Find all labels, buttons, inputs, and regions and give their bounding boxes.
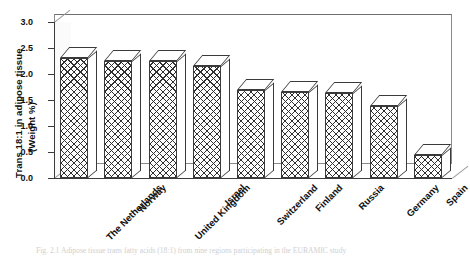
y-tick-label: 2.5 (20, 43, 33, 53)
bar-side-face (309, 85, 318, 178)
y-tick-label: 0.0 (20, 173, 33, 183)
bar-finland (281, 92, 309, 178)
x-label-germany: Germany (404, 182, 441, 219)
bar-israel (193, 66, 221, 178)
bar-front-face (414, 155, 442, 178)
bar-germany (370, 106, 398, 178)
bar-side-face (353, 86, 362, 178)
plot-area: 0.00.51.01.52.02.53.0 (36, 14, 460, 182)
bar-front-face (104, 61, 132, 178)
depth-edge-bottom-right (452, 166, 468, 179)
bar-side-face (132, 53, 141, 178)
bar-side-face (88, 50, 97, 178)
bar-front-face (325, 93, 353, 178)
y-tick-label: 0.5 (20, 147, 33, 157)
bar-series (54, 14, 452, 178)
bar-front-face (281, 92, 309, 178)
bar-front-face (60, 58, 88, 178)
bar-norway (104, 61, 132, 178)
bar-spain (414, 155, 442, 178)
x-label-russia: Russia (357, 182, 387, 212)
bar-side-face (398, 99, 407, 178)
bar-side-face (221, 59, 230, 178)
bar-front-face (149, 61, 177, 178)
bar-front-face (193, 66, 221, 178)
bar-united-kingdom (149, 61, 177, 178)
x-axis-labels: The NetherlandsNorwayUnited KingdomIsrae… (36, 182, 460, 240)
figure-caption: Fig. 2.1 Adipose tissue trans fatty acid… (36, 246, 456, 255)
y-axis-title-line1: Trans 18:1 in adipose tissue (13, 48, 24, 178)
y-tick-label: 3.0 (20, 17, 33, 27)
bar-switzerland (237, 90, 265, 178)
y-tick-label: 1.5 (20, 95, 33, 105)
bar-side-face (177, 53, 186, 178)
y-tick-mark (48, 178, 54, 179)
bar-russia (325, 93, 353, 178)
y-tick-label: 1.0 (20, 121, 33, 131)
bar-front-face (370, 106, 398, 178)
y-tick-label: 2.0 (20, 69, 33, 79)
x-label-spain: Spain (443, 182, 469, 208)
bar-the-netherlands (60, 58, 88, 178)
bar-front-face (237, 90, 265, 178)
bar-side-face (265, 82, 274, 178)
x-axis-line (54, 178, 452, 179)
x-label-finland: Finland (313, 182, 345, 214)
